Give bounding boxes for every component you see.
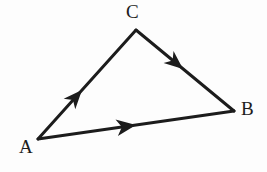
edge-a-to-b — [38, 111, 234, 139]
vertex-label-a: A — [19, 137, 33, 156]
triangle-figure — [0, 0, 267, 172]
edge-c-to-b — [136, 30, 234, 111]
diagram-canvas: A B C — [0, 0, 267, 172]
vertex-label-c: C — [126, 2, 139, 21]
edge-line-cb — [136, 30, 234, 111]
vertex-label-b: B — [241, 99, 254, 118]
